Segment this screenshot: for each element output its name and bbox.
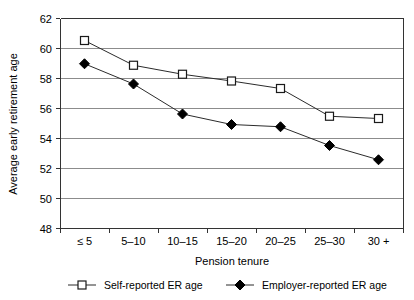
x-axis-tick-label: 15–20 [216, 235, 247, 247]
y-axis-tick-label: 48 [40, 223, 52, 235]
x-axis-tick-label: 30 + [368, 235, 390, 247]
data-point-marker-open-square [228, 77, 236, 85]
chart-container: 4850525456586062 ≤ 55–1010–1515–2020–252… [0, 0, 414, 300]
data-point-marker-open-square [81, 37, 89, 45]
x-axis-tick-label: 5–10 [121, 235, 145, 247]
y-axis-tick-label: 60 [40, 43, 52, 55]
x-axis-title: Pension tenure [195, 255, 269, 267]
x-axis-tick-labels-group: ≤ 55–1010–1515–2020–2525–3030 + [77, 235, 389, 247]
y-axis-tick-label: 52 [40, 163, 52, 175]
x-axis-tick-label: 20–25 [265, 235, 296, 247]
data-point-marker-filled-diamond [80, 59, 90, 69]
data-point-marker-open-square [375, 115, 383, 123]
data-point-marker-filled-diamond [178, 109, 188, 119]
y-axis-tick-label: 56 [40, 103, 52, 115]
legend-item-label: Employer-reported ER age [262, 279, 387, 291]
data-point-marker-filled-diamond [227, 120, 237, 130]
x-axis-tick-label: 10–15 [167, 235, 198, 247]
y-axis-tick-label: 62 [40, 13, 52, 25]
series-group [80, 37, 384, 165]
data-point-marker-filled-diamond [325, 141, 335, 151]
data-point-marker-open-square [78, 281, 86, 289]
data-point-marker-open-square [179, 70, 187, 78]
legend-group: Self-reported ER ageEmployer-reported ER… [68, 279, 387, 291]
x-axis-tick-label: 25–30 [314, 235, 345, 247]
y-axis-tick-label: 50 [40, 193, 52, 205]
x-axis-tick-label: ≤ 5 [77, 235, 92, 247]
legend-item-label: Self-reported ER age [104, 279, 203, 291]
y-axis-tick-label: 58 [40, 73, 52, 85]
y-axis-tick-labels-group: 4850525456586062 [40, 13, 52, 235]
data-point-marker-open-square [130, 61, 138, 69]
data-point-marker-open-square [326, 112, 334, 120]
line-chart: 4850525456586062 ≤ 55–1010–1515–2020–252… [0, 0, 414, 300]
data-point-marker-filled-diamond [276, 122, 286, 132]
data-point-marker-open-square [277, 85, 285, 93]
y-axis-tick-label: 54 [40, 133, 52, 145]
data-point-marker-filled-diamond [235, 280, 245, 290]
y-axis-ticks-group [56, 19, 60, 229]
data-point-marker-filled-diamond [129, 79, 139, 89]
y-axis-title: Average early retirement age [7, 53, 19, 195]
data-point-marker-filled-diamond [374, 155, 384, 165]
